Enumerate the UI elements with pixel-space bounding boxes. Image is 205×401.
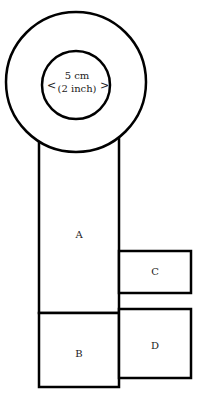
panel-c-label: C — [151, 266, 159, 277]
pattern-diagram: 5 cm (2 inch) < > A B C D — [0, 0, 205, 401]
panel-a-label: A — [74, 229, 83, 240]
panel-b-label: B — [75, 348, 82, 359]
arrow-right-icon: > — [100, 79, 109, 92]
panel-d-label: D — [151, 340, 159, 351]
arrow-left-icon: < — [47, 79, 56, 92]
diameter-label-cm: 5 cm — [65, 70, 90, 81]
diameter-label-inch: (2 inch) — [57, 83, 96, 94]
